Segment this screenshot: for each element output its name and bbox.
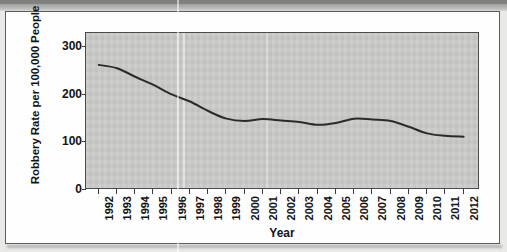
x-tick-label: 2003 [303,196,315,220]
x-tick-label: 1999 [230,196,242,220]
x-tick-mark [317,189,318,194]
y-tick-label: 300 [48,39,82,53]
x-tick-mark [335,189,336,194]
x-tick-mark [444,189,445,194]
x-tick-label: 2007 [376,196,388,220]
line-chart: Robbery Rate per 100,000 People 01002003… [6,12,501,245]
x-tick-mark [207,189,208,194]
x-tick-mark [408,189,409,194]
x-tick-mark [371,189,372,194]
x-tick-mark [353,189,354,194]
x-tick-mark [280,189,281,194]
y-axis-title: Robbery Rate per 100,000 People [29,4,41,186]
y-tick-label: 100 [48,134,82,148]
x-tick-mark [171,189,172,194]
figure-card: Robbery Rate per 100,000 People 01002003… [5,11,500,244]
x-tick-label: 1996 [176,196,188,220]
x-tick-label: 2011 [449,196,461,220]
x-tick-label: 1998 [212,196,224,220]
scan-top-band-dark [0,0,507,4]
x-tick-mark [390,189,391,194]
x-tick-mark [463,189,464,194]
plot-area [85,32,479,189]
x-tick-mark [98,189,99,194]
x-tick-label: 2009 [413,196,425,220]
x-axis-title: Year [85,226,479,240]
x-tick-label: 2006 [358,196,370,220]
y-tick-mark [82,94,86,95]
x-tick-label: 1997 [194,196,206,220]
x-tick-mark [262,189,263,194]
y-tick-mark [82,189,86,190]
series-path [99,65,464,137]
x-tick-label: 1995 [157,196,169,220]
x-tick-mark [244,189,245,194]
x-tick-mark [426,189,427,194]
x-tick-mark [189,189,190,194]
y-tick-label: 200 [48,87,82,101]
x-tick-label: 2002 [285,196,297,220]
x-tick-label: 1994 [139,196,151,220]
robbery-rate-line-series [86,33,479,189]
x-tick-label: 1993 [121,196,133,220]
x-tick-label: 2012 [468,196,480,220]
x-tick-mark [134,189,135,194]
x-tick-mark [225,189,226,194]
x-tick-label: 2001 [267,196,279,220]
x-tick-mark [116,189,117,194]
x-tick-label: 1992 [103,196,115,220]
x-tick-label: 2010 [431,196,443,220]
x-tick-label: 2005 [340,196,352,220]
y-axis-tick-labels: 0100200300 [42,12,82,245]
x-tick-label: 2008 [395,196,407,220]
y-tick-mark [82,46,86,47]
figure-card-shadow [7,245,502,248]
x-tick-label: 2000 [249,196,261,220]
y-tick-label: 0 [48,182,82,196]
y-tick-mark [82,141,86,142]
x-tick-mark [298,189,299,194]
x-tick-label: 2004 [322,196,334,220]
x-tick-mark [152,189,153,194]
